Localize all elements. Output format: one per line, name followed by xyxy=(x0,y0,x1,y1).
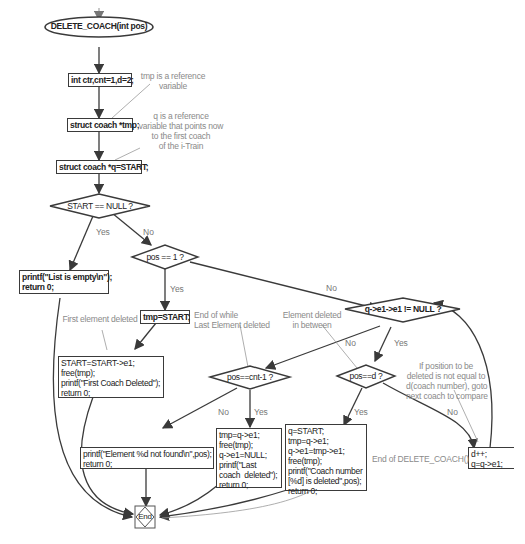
process-delete-middle: q=START; tmp=q->e1; q->e1=tmp->e1; free(… xyxy=(285,424,367,491)
edge-label-yes: Yes xyxy=(254,407,268,417)
annotation-q-ref: q is a reference variable that points no… xyxy=(136,111,226,151)
process-delete-last: tmp=q->e1; free(tmp); q->e1=NULL; printf… xyxy=(216,428,282,488)
edge-label-no: No xyxy=(345,338,356,348)
annotation-end-func: End of DELETE_COACH() xyxy=(372,454,456,464)
edge-label-no: No xyxy=(447,407,458,417)
annotation-goto-next: If position to be deleted is not equal t… xyxy=(406,361,486,401)
end-terminal: End xyxy=(134,512,156,521)
annotation-first-deleted: First element deleted xyxy=(60,314,140,324)
decision-pos-one: pos == 1 ? xyxy=(140,252,190,262)
process-decl-tmp: struct coach *tmp; xyxy=(67,118,133,132)
edge-label-no: No xyxy=(218,407,229,417)
edge-label-yes: Yes xyxy=(96,227,110,237)
annotation-end-while: End of while Last Element deleted xyxy=(194,310,278,330)
process-list-empty: printf("List is empty\n"); return 0; xyxy=(19,270,109,294)
process-advance: d++; q=q->e1; xyxy=(468,447,514,469)
process-decl-q: struct coach *q=START; xyxy=(56,160,142,174)
annotation-between: Element deleted in between xyxy=(282,310,342,330)
edge-label-yes: Yes xyxy=(354,407,368,417)
annotation-tmp-ref: tmp is a reference variable xyxy=(138,71,208,91)
process-tmp-start: tmp=START; xyxy=(140,310,190,324)
start-terminal: DELETE_COACH(int pos) xyxy=(50,21,148,31)
decision-pos-last: pos==cnt-1 ? xyxy=(218,372,282,382)
process-delete-first: START=START->e1; free(tmp); printf("Firs… xyxy=(58,356,164,398)
process-not-found: printf("Element %d not found\n",pos); re… xyxy=(80,447,214,469)
process-init: int ctr,cnt=1,d=2; xyxy=(68,73,132,87)
edge-label-no: No xyxy=(143,227,154,237)
decision-start-null: START == NULL ? xyxy=(60,201,140,211)
edge-label-yes: Yes xyxy=(394,338,408,348)
decision-pos-d: pos==d ? xyxy=(340,371,392,381)
edge-label-yes: Yes xyxy=(170,284,184,294)
decision-next-null: q->e1->e1 != NULL ? xyxy=(360,304,446,314)
edge-label-no: No xyxy=(326,283,337,293)
